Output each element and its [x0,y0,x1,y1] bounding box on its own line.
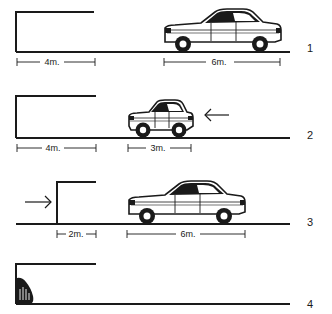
dimension-garage-depth: 4m. [17,57,95,67]
dimension-garage-depth: 2m. [57,229,96,239]
compact-car-icon [129,100,193,138]
garage-outline [16,96,96,138]
panel-2: 4m. 3m. 2 [16,96,313,153]
dimension-label: 4m. [45,143,60,153]
dimension-car-length: 6m. [127,229,245,239]
garage-outline [57,182,96,224]
panel-1: 4m. 6m. 1 [16,9,313,67]
dimension-label: 6m. [211,57,226,67]
dimension-car-length: 3m. [128,143,191,153]
sedan-car-icon [165,9,281,52]
dimension-car-length: 6m. [164,57,280,67]
sedan-car-icon [129,181,245,224]
panel-4: 4 [16,264,313,310]
panel-number: 2 [307,129,313,141]
dimension-label: 4m. [44,57,59,67]
dimension-label: 3m. [150,143,165,153]
fire-icon [17,278,33,303]
parking-diagram: 4m. 6m. 1 4m. [0,0,332,314]
panel-number: 3 [307,216,313,228]
panel-number: 4 [307,298,313,310]
panel-3: 2m. 6m. 3 [16,181,313,239]
dimension-garage-depth: 4m. [17,143,96,153]
arrow-right-icon [25,196,51,208]
dimension-label: 6m. [180,229,195,239]
arrow-left-icon [205,109,229,121]
panel-number: 1 [307,42,313,54]
dimension-label: 2m. [68,229,83,239]
garage-outline [16,12,94,52]
